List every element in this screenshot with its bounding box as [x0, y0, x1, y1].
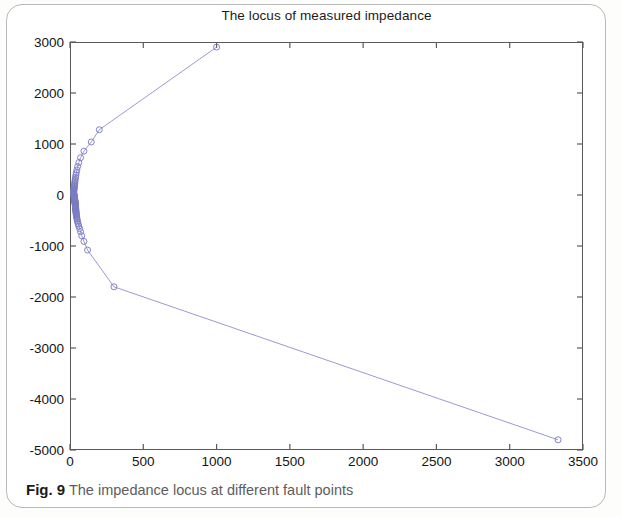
chart-plot-area: The locus of measured impedance 30002000…: [0, 0, 621, 470]
x-axis-tick-label: 3000: [495, 454, 525, 469]
x-axis-tick-label: 500: [132, 454, 155, 469]
x-axis-tick-label: 3500: [568, 454, 598, 469]
y-axis-tick-label: 2000: [34, 86, 64, 101]
y-axis-tick-label: -1000: [29, 239, 64, 254]
y-axis-tick-label: -3000: [29, 341, 64, 356]
x-axis-tick-labels: 0500100015002000250030003500: [70, 454, 583, 474]
data-series-group: [71, 44, 561, 443]
y-axis-tick-label: -5000: [29, 443, 64, 458]
x-axis-tick-label: 2000: [348, 454, 378, 469]
data-line-0: [74, 47, 558, 440]
axis-ticks: [70, 42, 583, 450]
y-axis-tick-label: -4000: [29, 392, 64, 407]
chart-title: The locus of measured impedance: [70, 8, 583, 23]
figure-caption-label: Fig. 9: [26, 481, 65, 498]
x-axis-tick-label: 1500: [275, 454, 305, 469]
figure-caption-text: The impedance locus at different fault p…: [69, 482, 353, 498]
y-axis-tick-labels: 3000200010000-1000-2000-3000-4000-5000: [0, 42, 64, 450]
x-axis-tick-label: 2500: [421, 454, 451, 469]
y-axis-tick-label: -2000: [29, 290, 64, 305]
y-axis-tick-label: 3000: [34, 35, 64, 50]
chart-svg: [70, 42, 583, 450]
figure-page: The locus of measured impedance 30002000…: [0, 0, 621, 517]
x-axis-tick-label: 0: [66, 454, 74, 469]
x-axis-tick-label: 1000: [202, 454, 232, 469]
y-axis-tick-label: 0: [56, 188, 64, 203]
figure-caption: Fig. 9 The impedance locus at different …: [26, 481, 586, 498]
y-axis-tick-label: 1000: [34, 137, 64, 152]
